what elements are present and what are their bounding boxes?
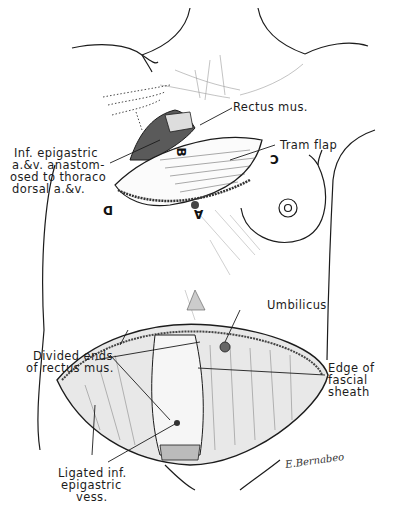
label-line: dorsal a.&v. xyxy=(12,183,108,195)
label-inf-epigastric-anastomosis: Inf. epigastric a.&v. anastom- osed to t… xyxy=(12,147,108,195)
label-ligated-vessels: Ligated inf. epigastric vess. xyxy=(58,467,127,503)
flap-letter-a: A xyxy=(194,207,203,221)
flap-letter-d: D xyxy=(103,203,113,217)
label-rectus-muscle: Rectus mus. xyxy=(233,101,308,113)
flap-letter-c: C xyxy=(270,152,279,166)
label-divided-ends: Divided ends of rectus mus. xyxy=(26,350,114,374)
illustration-drawing xyxy=(0,0,407,515)
label-tram-flap: Tram flap xyxy=(280,139,337,151)
label-edge-fascial-sheath: Edge of fascial sheath xyxy=(328,362,374,398)
label-line: vess. xyxy=(76,491,145,503)
chest-shading xyxy=(160,55,303,100)
flap-letter-b: B xyxy=(174,147,188,156)
label-line: sheath xyxy=(328,386,374,398)
label-umbilicus: Umbilicus xyxy=(267,299,327,311)
abdominal-wound xyxy=(57,290,328,465)
label-line: of rectus mus. xyxy=(26,362,114,374)
